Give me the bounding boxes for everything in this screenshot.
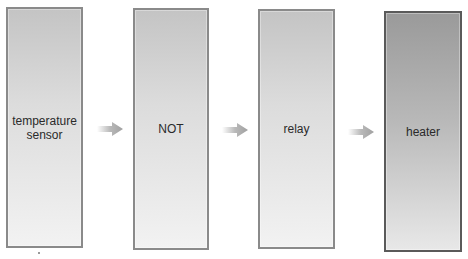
node-label: temperature sensor xyxy=(8,114,81,142)
artifact-dot xyxy=(38,252,40,254)
arrow-right-icon xyxy=(97,122,123,136)
node-not: NOT xyxy=(133,8,209,250)
arrow-right-icon xyxy=(348,125,374,139)
node-temperature-sensor: temperature sensor xyxy=(6,7,83,248)
flow-diagram: temperature sensor NOT xyxy=(0,0,468,259)
node-heater: heater xyxy=(384,11,462,252)
node-label-line-1: temperature xyxy=(8,114,81,128)
node-label: heater xyxy=(402,125,444,139)
node-relay: relay xyxy=(258,9,335,249)
node-label: relay xyxy=(279,122,313,136)
node-label: NOT xyxy=(154,122,187,136)
arrow-right-icon xyxy=(222,123,248,137)
node-label-line-2: sensor xyxy=(8,128,81,142)
